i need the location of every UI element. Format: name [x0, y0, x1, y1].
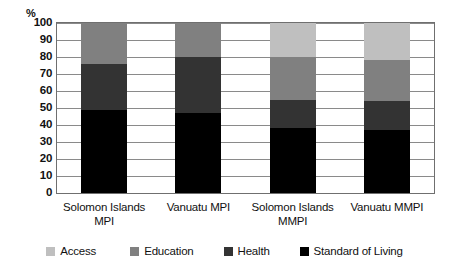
- y-axis-tick-70: 70: [8, 68, 52, 80]
- bar-segment[interactable]: [270, 128, 316, 193]
- stacked-bar-chart: % 0102030405060708090100 Solomon Islands…: [0, 0, 449, 272]
- bar-stack[interactable]: [175, 23, 221, 193]
- y-axis-tick-60: 60: [8, 85, 52, 97]
- legend-item[interactable]: Standard of Living: [300, 245, 403, 257]
- bar-segment[interactable]: [364, 60, 410, 101]
- legend-label: Access: [60, 245, 96, 257]
- bar-segment[interactable]: [364, 101, 410, 130]
- bar-segment[interactable]: [81, 110, 127, 193]
- x-axis-category-labels: Solomon IslandsMPIVanuatu MPISolomon Isl…: [57, 200, 434, 236]
- legend-item[interactable]: Health: [224, 245, 270, 257]
- bar-segment[interactable]: [81, 64, 127, 110]
- legend-label: Education: [144, 245, 193, 257]
- y-axis-tick-100: 100: [8, 17, 52, 29]
- x-axis-label-line: MPI: [57, 214, 151, 228]
- legend-swatch-icon: [46, 247, 55, 256]
- bar-segment[interactable]: [175, 23, 221, 57]
- bar-stack[interactable]: [364, 23, 410, 193]
- legend-label: Health: [238, 245, 270, 257]
- bar-group: [151, 23, 245, 193]
- bar-segment[interactable]: [81, 23, 127, 64]
- y-axis-tick-20: 20: [8, 153, 52, 165]
- x-axis-label: Vanuatu MPI: [151, 200, 245, 214]
- y-axis-tick-30: 30: [8, 136, 52, 148]
- legend-swatch-icon: [224, 247, 233, 256]
- bar-segment[interactable]: [364, 23, 410, 60]
- legend-items: AccessEducationHealthStandard of Living: [46, 245, 402, 257]
- y-axis-tick-0: 0: [8, 187, 52, 199]
- legend-label: Standard of Living: [314, 245, 403, 257]
- bar-group: [57, 23, 151, 193]
- x-axis-label: Solomon IslandsMMPI: [246, 200, 340, 228]
- x-axis-label: Vanuatu MMPI: [340, 200, 434, 214]
- y-axis-tick-10: 10: [8, 170, 52, 182]
- bar-segment[interactable]: [270, 57, 316, 100]
- x-axis-label-line: Vanuatu MPI: [151, 200, 245, 214]
- legend-item[interactable]: Education: [130, 245, 193, 257]
- bar-stack[interactable]: [81, 23, 127, 193]
- bar-segment[interactable]: [270, 100, 316, 129]
- y-axis-tick-40: 40: [8, 119, 52, 131]
- bar-segment[interactable]: [364, 130, 410, 193]
- bar-segment[interactable]: [175, 57, 221, 113]
- legend-swatch-icon: [130, 247, 139, 256]
- bar-group: [340, 23, 434, 193]
- x-axis-label-line: Solomon Islands: [57, 200, 151, 214]
- x-axis-label-line: MMPI: [246, 214, 340, 228]
- bars-layer: [57, 23, 434, 193]
- y-axis-tick-labels: 0102030405060708090100: [0, 22, 52, 194]
- x-axis-label: Solomon IslandsMPI: [57, 200, 151, 228]
- y-axis-tick-50: 50: [8, 102, 52, 114]
- legend-swatch-icon: [300, 247, 309, 256]
- y-axis-tick-80: 80: [8, 51, 52, 63]
- x-axis-label-line: Vanuatu MMPI: [340, 200, 434, 214]
- chart-legend: AccessEducationHealthStandard of Living: [0, 240, 449, 262]
- bar-stack[interactable]: [270, 23, 316, 193]
- bar-group: [246, 23, 340, 193]
- x-axis-label-line: Solomon Islands: [246, 200, 340, 214]
- bar-segment[interactable]: [270, 23, 316, 57]
- bar-segment[interactable]: [175, 113, 221, 193]
- y-axis-tick-90: 90: [8, 34, 52, 46]
- legend-item[interactable]: Access: [46, 245, 96, 257]
